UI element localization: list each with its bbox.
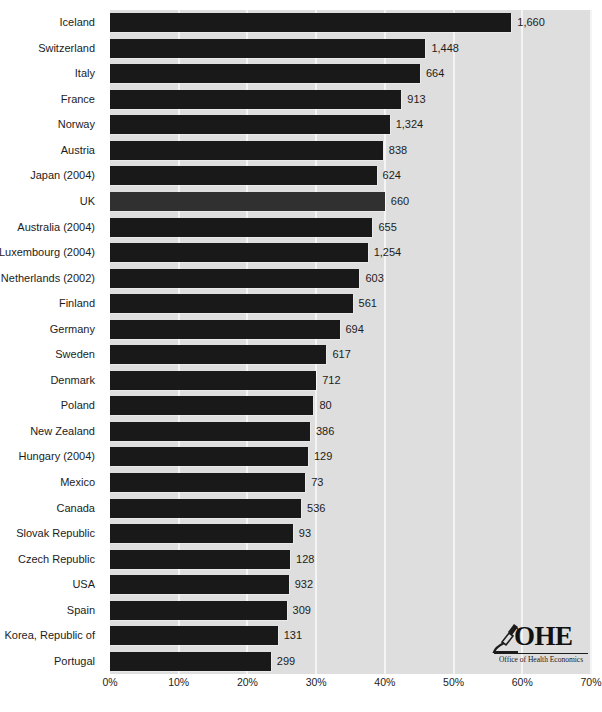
category-label: Spain xyxy=(0,601,95,620)
bar-value-label: 93 xyxy=(299,524,311,543)
chart-row: Slovak Republic93 xyxy=(110,521,591,547)
chart-row: UK660 xyxy=(110,189,591,215)
chart-row: Mexico73 xyxy=(110,470,591,496)
logo-wordmark: OHE xyxy=(514,622,573,650)
chart-row: Poland80 xyxy=(110,393,591,419)
category-label: Iceland xyxy=(0,13,95,32)
bar xyxy=(110,141,383,160)
category-label: Portugal xyxy=(0,652,95,671)
x-axis-tick-label: 50% xyxy=(443,676,464,688)
chart-row: Sweden617 xyxy=(110,342,591,368)
category-label: Poland xyxy=(0,396,95,415)
category-label: Mexico xyxy=(0,473,95,492)
bar-value-label: 131 xyxy=(284,626,302,645)
category-label: Netherlands (2002) xyxy=(0,269,95,288)
bar xyxy=(110,524,293,543)
x-axis-tick-label: 30% xyxy=(306,676,327,688)
category-label: France xyxy=(0,90,95,109)
chart-row: Denmark712 xyxy=(110,368,591,394)
chart-row: Switzerland1,448 xyxy=(110,36,591,62)
bar xyxy=(110,473,305,492)
bar-value-label: 1,448 xyxy=(431,39,459,58)
bar-value-label: 73 xyxy=(311,473,323,492)
bar xyxy=(110,447,308,466)
bar xyxy=(110,39,425,58)
bar-value-label: 299 xyxy=(277,652,295,671)
category-label: Sweden xyxy=(0,345,95,364)
bar-chart: Iceland1,660Switzerland1,448Italy664Fran… xyxy=(0,0,602,712)
category-label: Canada xyxy=(0,499,95,518)
bar-value-label: 913 xyxy=(407,90,425,109)
category-label: Switzerland xyxy=(0,39,95,58)
category-label: Australia (2004) xyxy=(0,218,95,237)
chart-row: USA932 xyxy=(110,572,591,598)
bar-value-label: 624 xyxy=(383,166,401,185)
chart-row: Hungary (2004)129 xyxy=(110,444,591,470)
bar-value-label: 129 xyxy=(314,447,332,466)
bar-value-label: 712 xyxy=(322,371,340,390)
bar xyxy=(110,320,340,339)
chart-row: Italy664 xyxy=(110,61,591,87)
bar xyxy=(110,166,377,185)
chart-row: Japan (2004)624 xyxy=(110,163,591,189)
bar-value-label: 603 xyxy=(365,269,383,288)
category-label: Germany xyxy=(0,320,95,339)
chart-row: New Zealand386 xyxy=(110,419,591,445)
category-label: Finland xyxy=(0,294,95,313)
chart-rows: Iceland1,660Switzerland1,448Italy664Fran… xyxy=(110,10,591,674)
bar-value-label: 1,254 xyxy=(374,243,402,262)
chart-row: Norway1,324 xyxy=(110,112,591,138)
x-axis-tick-label: 40% xyxy=(374,676,395,688)
bar-value-label: 664 xyxy=(426,64,444,83)
category-label: Japan (2004) xyxy=(0,166,95,185)
x-axis-tick-label: 60% xyxy=(512,676,533,688)
x-axis: 0%10%20%30%40%50%60%70% xyxy=(110,676,591,696)
bar-value-label: 838 xyxy=(389,141,407,160)
bar-value-label: 309 xyxy=(293,601,311,620)
bar xyxy=(110,371,316,390)
bar xyxy=(110,294,353,313)
category-label: Norway xyxy=(0,115,95,134)
bar-value-label: 617 xyxy=(332,345,350,364)
logo-subtitle: Office of Health Economics xyxy=(494,653,588,664)
bar-value-label: 1,324 xyxy=(396,115,424,134)
bar-value-label: 932 xyxy=(295,575,313,594)
bar xyxy=(110,269,359,288)
chart-row: Canada536 xyxy=(110,495,591,521)
bar xyxy=(110,90,401,109)
category-label: Denmark xyxy=(0,371,95,390)
chart-row: Netherlands (2002)603 xyxy=(110,265,591,291)
category-label: Luxembourg (2004) xyxy=(0,243,95,262)
bar xyxy=(110,345,326,364)
bar-value-label: 1,660 xyxy=(517,13,545,32)
ohe-logo: OHE Office of Health Economics xyxy=(492,620,592,668)
category-label: Italy xyxy=(0,64,95,83)
x-axis-tick-label: 70% xyxy=(580,676,601,688)
chart-row: Australia (2004)655 xyxy=(110,214,591,240)
bar xyxy=(110,64,420,83)
chart-row: Luxembourg (2004)1,254 xyxy=(110,240,591,266)
bar-value-label: 694 xyxy=(346,320,364,339)
category-label: Austria xyxy=(0,141,95,160)
category-label: Czech Republic xyxy=(0,550,95,569)
bar-value-label: 128 xyxy=(296,550,314,569)
bar xyxy=(110,396,313,415)
bar xyxy=(110,626,278,645)
category-label: New Zealand xyxy=(0,422,95,441)
bar-value-label: 660 xyxy=(391,192,409,211)
chart-row: Czech Republic128 xyxy=(110,546,591,572)
category-label: Korea, Republic of xyxy=(0,626,95,645)
bar xyxy=(110,192,385,211)
bar xyxy=(110,499,301,518)
category-label: USA xyxy=(0,575,95,594)
x-axis-tick-label: 10% xyxy=(168,676,189,688)
bar-value-label: 536 xyxy=(307,499,325,518)
bar-value-label: 561 xyxy=(359,294,377,313)
category-label: Hungary (2004) xyxy=(0,447,95,466)
chart-row: Iceland1,660 xyxy=(110,10,591,36)
chart-row: Germany694 xyxy=(110,317,591,343)
bar-value-label: 80 xyxy=(319,396,331,415)
category-label: UK xyxy=(0,192,95,211)
bar xyxy=(110,550,290,569)
x-axis-tick-label: 20% xyxy=(237,676,258,688)
